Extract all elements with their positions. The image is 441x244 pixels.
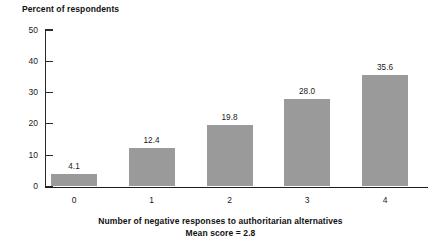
y-tick-mark	[45, 29, 53, 30]
y-tick-mark	[45, 92, 53, 93]
bar	[51, 174, 97, 187]
bar-value-label: 35.6	[365, 64, 405, 72]
x-tick-label: 3	[287, 196, 327, 205]
x-axis-title: Number of negative responses to authorit…	[0, 216, 441, 226]
y-tick-label: 50	[14, 26, 38, 35]
y-tick-label: 10	[14, 151, 38, 160]
y-tick-label: 40	[14, 57, 38, 66]
x-tick-label: 1	[132, 196, 172, 205]
bar	[284, 99, 330, 187]
bar-chart: Percent of respondents 01020304050 4.112…	[0, 0, 441, 244]
y-tick-label: 30	[14, 88, 38, 97]
x-tick-label: 4	[365, 196, 405, 205]
y-axis-title: Percent of respondents	[22, 4, 119, 14]
mean-score-note: Mean score = 2.8	[0, 228, 441, 238]
y-tick-label: 0	[14, 182, 38, 191]
y-tick-mark	[45, 155, 53, 156]
bar-value-label: 19.8	[210, 114, 250, 122]
bar-value-label: 12.4	[132, 137, 172, 145]
bar-value-label: 28.0	[287, 88, 327, 96]
bar	[362, 75, 408, 186]
x-tick-label: 0	[54, 196, 94, 205]
y-tick-mark	[45, 61, 53, 62]
bar-value-label: 4.1	[54, 163, 94, 171]
x-axis-line	[45, 187, 428, 189]
bar	[129, 148, 175, 187]
y-tick-mark	[45, 123, 53, 124]
y-axis-line	[45, 29, 46, 188]
bar	[207, 125, 253, 187]
y-tick-label: 20	[14, 119, 38, 128]
x-tick-label: 2	[210, 196, 250, 205]
